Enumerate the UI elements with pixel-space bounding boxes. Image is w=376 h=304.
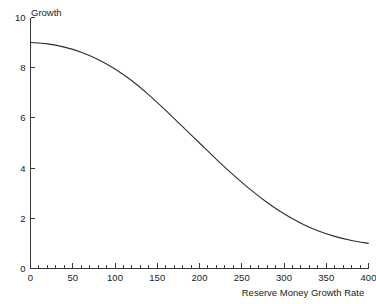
x-tick-label: 400 [361, 272, 376, 283]
x-tick-label: 350 [318, 272, 334, 283]
x-tick-label: 0 [28, 272, 33, 283]
chart-container: 0246810 050100150200250300350400 Growth … [0, 0, 376, 304]
x-tick-label: 200 [192, 272, 208, 283]
y-tick-label: 10 [15, 12, 26, 23]
x-tick-label: 300 [276, 272, 292, 283]
y-tick-label: 4 [20, 163, 25, 174]
y-axis-title: Growth [31, 7, 62, 18]
x-axis-title: Reserve Money Growth Rate [242, 287, 365, 298]
y-tick-label: 6 [20, 112, 25, 123]
y-axis: 0246810 [15, 12, 35, 274]
y-tick-label: 0 [20, 263, 25, 274]
y-axis-ticks [31, 18, 35, 269]
y-axis-tick-labels: 0246810 [15, 12, 26, 274]
x-tick-label: 50 [67, 272, 78, 283]
y-tick-label: 2 [20, 213, 25, 224]
x-tick-label: 150 [149, 272, 165, 283]
growth-curve [31, 43, 369, 244]
x-axis: 050100150200250300350400 [28, 263, 376, 283]
plot-area [31, 43, 369, 244]
line-chart: 0246810 050100150200250300350400 Growth … [0, 0, 376, 304]
y-tick-label: 8 [20, 62, 25, 73]
x-axis-tick-labels: 050100150200250300350400 [28, 272, 376, 283]
x-tick-label: 250 [234, 272, 250, 283]
x-tick-label: 100 [107, 272, 123, 283]
